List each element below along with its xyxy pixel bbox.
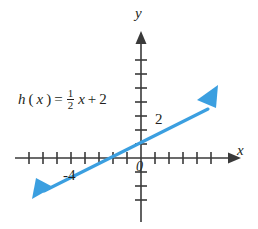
equation-close-paren: ) (46, 91, 51, 108)
y-axis-label: y (135, 6, 142, 21)
x-intercept-label: -4 (63, 168, 76, 183)
y-axis-group (135, 31, 147, 222)
equation-variable: x (37, 91, 44, 108)
fraction-denominator: 2 (67, 99, 75, 111)
equation-slope-variable: x (78, 91, 85, 108)
x-axis-group (15, 152, 241, 164)
y-intercept-label: 2 (155, 112, 163, 127)
graph-canvas (0, 0, 258, 229)
equation-open-paren: ( (29, 91, 34, 108)
equation-fraction-one-half: 1 2 (67, 88, 75, 111)
equation-plus-sign: + (88, 91, 96, 108)
origin-label: 0 (136, 160, 143, 174)
fraction-numerator: 1 (67, 88, 75, 99)
function-equation-label: h(x) = 1 2 x + 2 (18, 88, 107, 111)
y-axis-arrow-icon (136, 31, 147, 44)
equation-intercept-term: 2 (99, 91, 107, 108)
equation-function-name: h (18, 91, 26, 108)
equation-equals-sign: = (54, 91, 62, 108)
x-axis-label: x (237, 143, 244, 158)
linear-function-graph-figure: x y 0 2 -4 h(x) = 1 2 x + 2 (0, 0, 258, 229)
function-line-arrow-left-icon (32, 178, 53, 199)
function-line-arrow-right-icon (197, 85, 218, 108)
